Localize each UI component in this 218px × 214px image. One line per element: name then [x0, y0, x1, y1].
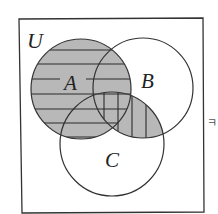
universe-label: U: [27, 28, 45, 53]
set-a-label: A: [62, 71, 77, 95]
venn-diagram: U A B C ㅋ: [0, 0, 218, 214]
side-glyph: ㅋ: [207, 117, 217, 130]
set-b-label: B: [141, 69, 154, 93]
set-c-label: C: [105, 148, 120, 172]
